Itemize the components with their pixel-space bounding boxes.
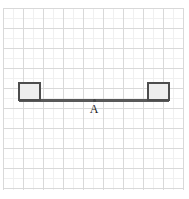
grid-line-minor-h-8: [3, 178, 183, 179]
right-block: [147, 82, 170, 101]
grid-line-minor-h-1: [3, 38, 183, 39]
grid-line-minor-v-0: [13, 8, 14, 190]
point-a-label: A: [84, 103, 104, 115]
grid-line-minor-v-8: [173, 8, 174, 190]
grid-line-minor-h-3: [3, 78, 183, 79]
grid-line-major-h-2: [3, 48, 183, 49]
grid-line-major-h-1: [3, 28, 183, 29]
grid-line-major-v-9: [183, 8, 184, 190]
grid-line-major-v-0: [3, 8, 4, 190]
grid-line-major-h-0: [3, 8, 183, 9]
grid-line-major-h-8: [3, 168, 183, 169]
grid-line-major-h-9: [3, 188, 183, 189]
grid-line-minor-h-5: [3, 118, 183, 119]
grid-line-major-h-7: [3, 148, 183, 149]
balance-beam-figure: A: [0, 0, 189, 199]
grid-line-minor-h-7: [3, 158, 183, 159]
grid-line-minor-h-0: [3, 18, 183, 19]
grid-line-minor-h-6: [3, 138, 183, 139]
left-block: [18, 82, 41, 101]
grid-line-minor-h-2: [3, 58, 183, 59]
grid-line-major-h-6: [3, 128, 183, 129]
grid-line-major-h-3: [3, 68, 183, 69]
